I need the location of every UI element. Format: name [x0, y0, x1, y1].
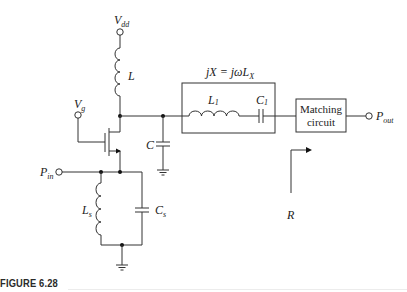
ground-icon: [157, 170, 169, 175]
source-node: [118, 170, 122, 174]
pin-terminal: [56, 169, 142, 208]
capacitor-c1-label: C1: [256, 93, 268, 107]
reactance-box: [182, 83, 296, 133]
capacitor-c-label: C: [146, 138, 155, 152]
inductor-l1-label: L1: [207, 93, 219, 107]
r-arrow-icon: [291, 147, 312, 193]
capacitor-cs-icon: [135, 208, 149, 245]
matching-line1: Matching: [300, 103, 343, 115]
mosfet-transistor-icon: [105, 116, 121, 172]
matching-line2: circuit: [307, 116, 335, 128]
r-label: R: [286, 208, 295, 222]
capacitor-cs-label: Cs: [155, 203, 166, 219]
ground-icon: [116, 265, 128, 270]
reactance-label: jX = jωLX: [204, 65, 255, 81]
vdd-terminal: [117, 29, 123, 48]
pout-terminal: [366, 113, 372, 119]
vg-label: Vg: [74, 97, 85, 113]
vg-terminal: [75, 112, 105, 142]
inductor-l-icon: [115, 48, 120, 116]
figure-caption: FIGURE 6.28: [0, 277, 58, 289]
matching-circuit-box: Matching circuit: [296, 99, 346, 132]
divider: [68, 289, 407, 290]
inductor-l-label: L: [127, 69, 135, 83]
pin-label: Pin: [39, 165, 54, 181]
amplifier-circuit-diagram: Vdd L C Vg Pin: [0, 0, 407, 292]
vdd-label: Vdd: [114, 13, 130, 29]
inductor-ls-label: Ls: [81, 203, 92, 219]
capacitor-c-icon: [156, 116, 170, 170]
pout-label: Pout: [375, 109, 394, 125]
